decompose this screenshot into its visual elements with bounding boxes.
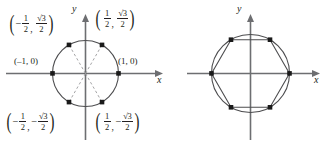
hexagon-graphic <box>180 0 334 148</box>
vertex-half-sqrt3half <box>268 37 273 42</box>
x-sign: – <box>13 117 18 127</box>
coord-label-top-right: ( 1 2 , √3 2 ) <box>94 9 136 29</box>
y-sign: – <box>32 117 37 127</box>
x-axis-label-left: x <box>157 74 161 85</box>
paren-open: ( <box>10 14 15 34</box>
y-axis-label-left: y <box>72 3 76 14</box>
unit-circle-panel: y x (–1, 0) (1, 0) ( – 1 2 , √3 2 <box>0 0 180 148</box>
x-sign: – <box>16 19 21 29</box>
paren-open: ( <box>96 9 101 29</box>
y-fraction: √3 2 <box>38 112 49 131</box>
point-1-0 <box>116 71 121 76</box>
x-fraction: 1 2 <box>104 9 111 28</box>
comma: , <box>27 123 30 133</box>
x-axis-label-right: x <box>314 74 318 85</box>
paren-open: ( <box>96 112 101 132</box>
y-sign: – <box>116 117 121 127</box>
axes <box>187 14 320 140</box>
point-neg1-0 <box>50 71 55 76</box>
vertex-neghalf-negsqrt3half <box>229 105 234 110</box>
dashed-radius-top-right <box>86 45 103 74</box>
y-fraction: √3 2 <box>117 9 128 28</box>
comma: , <box>30 25 33 35</box>
vertex-1-0 <box>287 71 292 76</box>
x-fraction: 1 2 <box>22 14 29 33</box>
paren-open: ( <box>7 112 12 132</box>
comma: , <box>112 20 115 30</box>
point-half-negsqrt3half <box>100 100 105 105</box>
y-axis-arrowhead <box>82 14 89 22</box>
y-fraction: √3 2 <box>122 112 133 131</box>
paren-close: ) <box>134 112 139 132</box>
x-fraction: 1 2 <box>19 112 26 131</box>
coord-label-bottom-right: ( 1 2 , – √3 2 ) <box>94 112 141 132</box>
dashed-radius-bottom-right <box>86 74 103 103</box>
point-neghalf-sqrt3half <box>67 43 72 48</box>
y-fraction: √3 2 <box>36 14 47 33</box>
coord-label-top-left: ( – 1 2 , √3 2 ) <box>8 14 55 34</box>
vertex-neghalf-sqrt3half <box>229 37 234 42</box>
vertex-neg1-0 <box>209 71 214 76</box>
figure-root: y x (–1, 0) (1, 0) ( – 1 2 , √3 2 <box>0 0 334 148</box>
dashed-radius-bottom-left <box>69 74 86 103</box>
paren-close: ) <box>50 112 55 132</box>
inscribed-hexagon-panel: y x <box>180 0 334 148</box>
coord-label-bottom-left: ( – 1 2 , – √3 2 ) <box>5 112 56 132</box>
paren-close: ) <box>129 9 134 29</box>
intercept-label-right: (1, 0) <box>118 56 138 66</box>
y-axis-arrowhead <box>247 14 254 22</box>
vertex-half-negsqrt3half <box>268 105 273 110</box>
point-half-sqrt3half <box>100 43 105 48</box>
paren-close: ) <box>48 14 53 34</box>
comma: , <box>112 123 115 133</box>
point-neghalf-negsqrt3half <box>67 100 72 105</box>
y-axis-label-right: y <box>237 3 241 14</box>
dashed-radius-top-left <box>69 45 86 74</box>
intercept-label-left: (–1, 0) <box>14 56 38 66</box>
x-fraction: 1 2 <box>104 112 111 131</box>
